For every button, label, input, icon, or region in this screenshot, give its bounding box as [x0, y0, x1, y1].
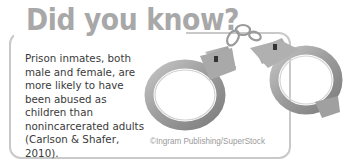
fact-text: Prison inmates, both male and female, ar…: [25, 52, 145, 160]
photo-credit: ©Ingram Publishing/SuperStock: [150, 136, 265, 146]
box-title: Did you know?: [26, 2, 239, 36]
